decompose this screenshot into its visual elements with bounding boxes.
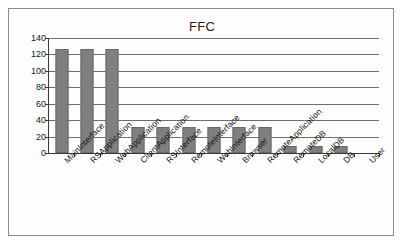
chart-frame: FFC 140120100806040200 MainInterfaceRSAp… bbox=[8, 8, 394, 236]
y-axis-tick-label: 140 bbox=[16, 33, 46, 43]
y-axis-tick-label: 60 bbox=[16, 99, 46, 109]
y-axis-tick-label: 40 bbox=[16, 115, 46, 125]
bar-slot bbox=[252, 38, 277, 153]
y-axis-tick-label: 120 bbox=[16, 49, 46, 59]
bar-slot bbox=[49, 38, 74, 153]
chart-title: FFC bbox=[9, 19, 395, 34]
y-axis-tick-label: 0 bbox=[16, 148, 46, 158]
y-axis-tick-label: 100 bbox=[16, 66, 46, 76]
y-axis-tick-mark bbox=[45, 153, 49, 154]
bar[interactable] bbox=[55, 49, 68, 153]
y-axis-tick-label: 20 bbox=[16, 132, 46, 142]
bar-slot bbox=[354, 38, 379, 153]
y-axis-tick-label: 80 bbox=[16, 82, 46, 92]
